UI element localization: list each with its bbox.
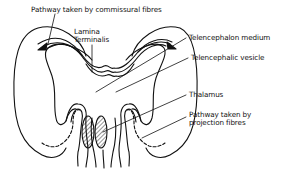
projection-pathway-left [42, 110, 80, 147]
right-stalk-lines [111, 118, 116, 167]
arrowhead-right-icon [167, 42, 176, 49]
right-thalamus-wall-inner [125, 109, 136, 166]
label-telencephalic-vesicle: Telencephalic vesicle [191, 54, 264, 62]
leader-projection [142, 117, 186, 138]
thalamus-left [82, 116, 94, 148]
label-projection-line2: projection fibres [189, 119, 246, 127]
label-commissural-pathway: Pathway taken by commissural fibres [31, 6, 162, 14]
left-thalamus-wall-inner [71, 109, 82, 166]
telencephalon-diagram [0, 0, 285, 178]
midline-stalk [103, 150, 104, 168]
label-lamina-line2: Terminalis [74, 36, 109, 44]
arrowhead-left-icon [38, 43, 47, 50]
leader-commissural [48, 14, 55, 44]
leader-thalamus [103, 95, 186, 132]
thalamus-right [95, 116, 107, 148]
lamina-terminalis-middle [48, 44, 166, 72]
label-telencephalon-medium: Telencephalon medium [189, 34, 270, 42]
label-thalamus: Thalamus [189, 91, 223, 99]
projection-pathway-right [127, 110, 165, 147]
